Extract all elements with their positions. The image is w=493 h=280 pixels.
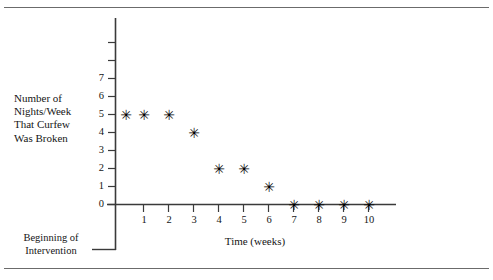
y-tick-label-2: 2 bbox=[90, 162, 104, 173]
data-point-marker: ✳ bbox=[238, 162, 250, 174]
x-tick-label-4: 4 bbox=[210, 214, 228, 225]
y-axis-title: Number of Nights/Week That Curfew Was Br… bbox=[14, 92, 106, 145]
x-axis-title: Time (weeks) bbox=[195, 235, 315, 247]
data-point-marker: ✳ bbox=[163, 108, 175, 120]
x-tick-label-10: 10 bbox=[360, 214, 378, 225]
data-point-marker: ✳ bbox=[338, 198, 350, 210]
data-point-marker: ✳ bbox=[263, 180, 275, 192]
x-tick-label-2: 2 bbox=[160, 214, 178, 225]
x-tick-label-8: 8 bbox=[310, 214, 328, 225]
data-point-marker: ✳ bbox=[188, 126, 200, 138]
data-point-marker: ✳ bbox=[120, 108, 132, 120]
x-tick-label-9: 9 bbox=[335, 214, 353, 225]
y-tick-label-7: 7 bbox=[90, 72, 104, 83]
y-tick-label-1: 1 bbox=[90, 180, 104, 191]
data-point-marker: ✳ bbox=[213, 162, 225, 174]
y-tick-label-0: 0 bbox=[90, 198, 104, 209]
x-tick-label-5: 5 bbox=[235, 214, 253, 225]
data-point-marker: ✳ bbox=[138, 108, 150, 120]
x-tick-label-1: 1 bbox=[135, 214, 153, 225]
data-point-marker: ✳ bbox=[363, 198, 375, 210]
data-point-marker: ✳ bbox=[288, 198, 300, 210]
x-tick-label-3: 3 bbox=[185, 214, 203, 225]
x-tick-label-7: 7 bbox=[285, 214, 303, 225]
data-point-marker: ✳ bbox=[313, 198, 325, 210]
x-tick-label-6: 6 bbox=[260, 214, 278, 225]
y-tick-label-3: 3 bbox=[90, 144, 104, 155]
intervention-annotation: Beginning of Intervention bbox=[12, 231, 90, 257]
figure-container: 0 1 2 3 4 5 6 7 1 2 3 4 5 6 7 8 9 10 ✳ ✳… bbox=[0, 0, 493, 280]
